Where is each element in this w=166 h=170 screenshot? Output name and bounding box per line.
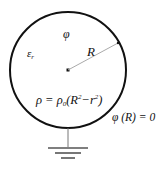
charge-density-formula: ρ = ρ0(R2−r2): [35, 93, 102, 108]
ground-icon: [48, 148, 88, 158]
boundary-condition-label: φ (R) = 0: [112, 111, 155, 124]
charged-sphere-diagram: φ εr R ρ = ρ0(R2−r2) φ (R) = 0: [0, 0, 166, 170]
radius-endpoint: [117, 42, 119, 44]
radius-label: R: [86, 44, 95, 59]
potential-label: φ: [63, 27, 70, 41]
permittivity-label: εr: [27, 47, 34, 61]
